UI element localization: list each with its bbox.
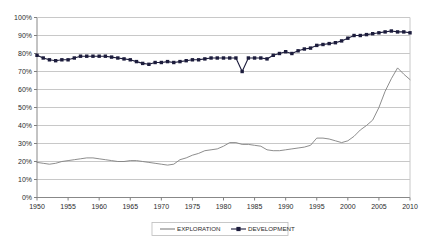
y-tick-label: 60% [18,86,32,93]
series-marker-development [359,34,362,37]
series-marker-development [60,58,63,61]
x-tick-label: 2010 [402,203,418,210]
series-marker-development [402,30,405,33]
series-marker-development [365,33,368,36]
y-tick-label: 80% [18,50,32,57]
series-marker-development [284,50,287,53]
series-marker-development [247,56,250,59]
series-marker-development [371,32,374,35]
y-tick-label: 90% [18,32,32,39]
series-marker-development [172,61,175,64]
x-tick-label: 1990 [278,203,294,210]
series-marker-development [290,52,293,55]
y-tick-label: 100% [14,14,32,21]
series-marker-development [321,43,324,46]
x-tick-label: 2000 [340,203,356,210]
series-marker-development [259,56,262,59]
series-marker-development [104,55,107,58]
series-marker-development [340,39,343,42]
series-marker-development [48,58,51,61]
x-tick-label: 1950 [29,203,45,210]
series-marker-development [228,56,231,59]
series-marker-development [147,63,150,66]
series-marker-development [334,41,337,44]
series-marker-development [135,60,138,63]
series-marker-development [129,58,132,61]
series-marker-development [327,42,330,45]
series-marker-development [110,55,113,58]
series-marker-development [253,56,256,59]
series-marker-development [408,31,411,34]
y-tick-label: 50% [18,104,32,111]
y-tick-label: 20% [18,158,32,165]
series-marker-development [240,70,243,73]
series-marker-development [166,60,169,63]
series-marker-development [54,59,57,62]
series-marker-development [265,57,268,60]
series-marker-development [85,55,88,58]
x-tick-label: 1970 [154,203,170,210]
legend-swatch-marker-development [236,227,240,231]
series-marker-development [309,46,312,49]
y-tick-label: 30% [18,140,32,147]
x-tick-label: 1955 [60,203,76,210]
x-tick-label: 1960 [91,203,107,210]
series-marker-development [352,34,355,37]
series-marker-development [315,44,318,47]
series-marker-development [79,55,82,58]
chart-container: 0%10%20%30%40%50%60%70%80%90%100% 195019… [0,0,433,246]
series-marker-development [390,29,393,32]
series-marker-development [141,62,144,65]
series-marker-development [122,57,125,60]
series-marker-development [191,58,194,61]
x-tick-label: 1980 [216,203,232,210]
series-marker-development [73,56,76,59]
series-marker-development [35,54,38,57]
series-marker-development [278,52,281,55]
series-marker-development [42,56,45,59]
y-tick-label: 70% [18,68,32,75]
series-marker-development [346,37,349,40]
series-marker-development [377,31,380,34]
series-marker-development [116,56,119,59]
series-marker-development [222,56,225,59]
x-tick-label: 1995 [309,203,325,210]
series-marker-development [185,59,188,62]
y-tick-label: 10% [18,176,32,183]
series-marker-development [178,60,181,63]
series-marker-development [160,61,163,64]
chart-legend: EXPLORATIONDEVELOPMENT [152,223,295,236]
series-marker-development [91,55,94,58]
series-marker-development [153,61,156,64]
y-tick-label: 40% [18,122,32,129]
series-marker-development [303,47,306,50]
series-marker-development [97,55,100,58]
series-marker-development [203,57,206,60]
series-marker-development [209,56,212,59]
x-tick-label: 1965 [122,203,138,210]
series-marker-development [396,30,399,33]
legend-label-exploration: EXPLORATION [177,225,221,232]
series-marker-development [216,56,219,59]
series-marker-development [197,58,200,61]
x-tick-label: 2005 [371,203,387,210]
series-marker-development [383,30,386,33]
y-tick-label: 0% [22,194,32,201]
series-marker-development [296,49,299,52]
legend-label-development: DEVELOPMENT [248,225,295,232]
series-marker-development [234,56,237,59]
line-chart: 0%10%20%30%40%50%60%70%80%90%100% 195019… [0,0,433,246]
series-marker-development [66,58,69,61]
series-marker-development [272,54,275,57]
x-tick-label: 1985 [247,203,263,210]
x-tick-label: 1975 [185,203,201,210]
